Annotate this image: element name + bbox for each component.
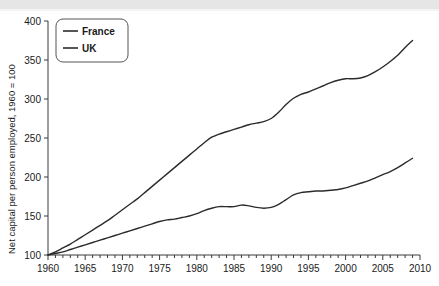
y-tick-label: 300 <box>24 94 41 105</box>
line-chart: 100150200250300350400 196019651970197519… <box>0 0 439 286</box>
x-tick-label: 1990 <box>260 263 283 274</box>
x-tick-label: 1975 <box>148 263 171 274</box>
y-tick-label: 150 <box>24 211 41 222</box>
chart-legend: France UK <box>56 19 128 62</box>
legend-label-uk: UK <box>82 43 97 54</box>
x-tick-label: 1970 <box>111 263 134 274</box>
x-tick-label: 1965 <box>74 263 97 274</box>
y-tick-label: 200 <box>24 172 41 183</box>
x-tick-label: 2000 <box>334 263 357 274</box>
x-tick-label: 1985 <box>223 263 246 274</box>
y-tick-label: 100 <box>24 250 41 261</box>
data-series <box>48 41 413 256</box>
y-tick-label: 350 <box>24 55 41 66</box>
chart-svg: 100150200250300350400 196019651970197519… <box>0 0 439 286</box>
x-tick-label: 1980 <box>186 263 209 274</box>
y-tick-labels: 100150200250300350400 <box>24 16 41 261</box>
x-tick-label: 1995 <box>297 263 320 274</box>
x-tick-label: 2005 <box>372 263 395 274</box>
x-tick-marks <box>48 255 420 260</box>
x-tick-label: 1960 <box>37 263 60 274</box>
legend-label-france: France <box>82 26 115 37</box>
y-axis-title: Net capital per person employed, 1960 = … <box>6 64 17 254</box>
x-tick-labels: 1960196519701975198019851990199520002005… <box>37 263 432 274</box>
series-line-france <box>48 41 413 256</box>
series-line-uk <box>48 158 413 255</box>
y-tick-marks <box>44 21 48 255</box>
x-tick-label: 2010 <box>409 263 432 274</box>
y-tick-label: 250 <box>24 133 41 144</box>
y-tick-label: 400 <box>24 16 41 27</box>
